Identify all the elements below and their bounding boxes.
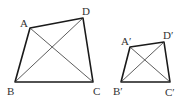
label-c-prime: C′: [165, 86, 175, 98]
label-c: C: [93, 85, 100, 97]
diagonal-ac: [30, 28, 93, 82]
label-d-prime: D′: [163, 29, 173, 41]
label-b: B: [7, 85, 14, 97]
label-b-prime: B′: [113, 85, 123, 97]
diagonal-b-prime-d-prime: [121, 42, 164, 82]
similar-quadrilaterals-diagram: A D B C A′ D′ B′ C′: [0, 0, 190, 100]
quadrilateral-abcd: A D B C: [7, 5, 100, 97]
diagonal-a-prime-c-prime: [130, 47, 170, 82]
quadrilateral-a-prime-b-prime-c-prime-d-prime: A′ D′ B′ C′: [113, 29, 175, 98]
label-a-prime: A′: [121, 35, 131, 47]
label-d: D: [82, 5, 90, 17]
label-a: A: [20, 17, 28, 29]
